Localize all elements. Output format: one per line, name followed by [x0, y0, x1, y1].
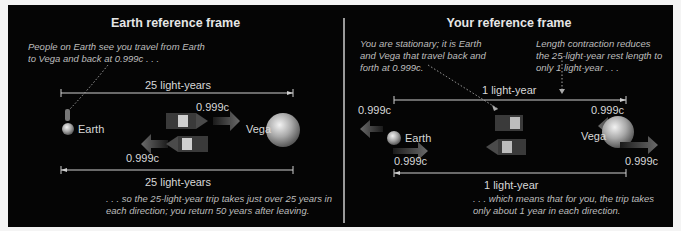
right-note-right: Length contraction reduces the 25-light-… — [536, 38, 676, 74]
left-panel-title: Earth reference frame — [8, 16, 343, 30]
figure-panel: Earth reference frame People on Earth se… — [8, 5, 673, 227]
right-note-bottom-line1: . . . which means that for you, the trip… — [473, 193, 673, 205]
distance-line-bottom-right — [394, 169, 626, 177]
right-speed-vega-right: 0.999c — [625, 155, 658, 167]
left-note-top-line2: to Vega and back at 0.999c . . . — [28, 53, 228, 65]
right-note-left-line3: forth at 0.999c. — [360, 62, 520, 74]
arrow-earth-left — [360, 120, 383, 138]
arrow-right-out — [213, 111, 240, 131]
left-note-bottom-line2: each direction; you return 50 years afte… — [106, 205, 346, 217]
left-earth-label: Earth — [78, 123, 104, 135]
right-distance-top: 1 light-year — [482, 84, 536, 96]
right-distance-bottom: 1 light-year — [484, 179, 538, 191]
rocket-on-earth-icon — [65, 109, 70, 121]
right-speed-earth-right: 0.999c — [394, 155, 427, 167]
earth-planet-left — [62, 123, 74, 135]
left-speed-back: 0.999c — [126, 152, 159, 164]
right-note-bottom: . . . which means that for you, the trip… — [473, 193, 673, 217]
right-note-left: You are stationary; it is Earth and Vega… — [360, 38, 520, 74]
earth-planet-right — [387, 131, 401, 145]
right-earth-label: Earth — [405, 132, 431, 144]
distance-line-top-right — [394, 96, 626, 104]
right-note-right-line1: Length contraction reduces — [536, 38, 676, 50]
vega-star-left — [266, 113, 300, 147]
left-distance-top: 25 light-years — [145, 79, 211, 91]
rocket-stationary-top-icon — [495, 115, 523, 131]
right-note-bottom-line2: only about 1 year in each direction. — [473, 205, 673, 217]
left-note-bottom: . . . so the 25-light-year trip takes ju… — [106, 193, 346, 217]
right-speed-vega-left: 0.999c — [591, 104, 624, 116]
left-note-bottom-line1: . . . so the 25-light-year trip takes ju… — [106, 193, 346, 205]
left-distance-bottom: 25 light-years — [145, 176, 211, 188]
right-note-left-line2: and Vega that travel back and — [360, 50, 520, 62]
left-vega-label: Vega — [246, 123, 271, 135]
rocket-stationary-bottom-icon — [486, 139, 526, 155]
right-speed-earth-left: 0.999c — [358, 104, 391, 116]
right-note-left-line1: You are stationary; it is Earth — [360, 38, 520, 50]
right-panel-title: Your reference frame — [345, 16, 673, 30]
left-note-top-line1: People on Earth see you travel from Eart… — [28, 41, 228, 53]
distance-line-bottom-left — [61, 166, 293, 174]
right-note-right-line2: the 25-light-year rest length to — [536, 50, 676, 62]
right-vega-label: Vega — [581, 130, 606, 142]
left-note-top: People on Earth see you travel from Eart… — [28, 41, 228, 65]
pointer-dotted-left — [70, 65, 108, 109]
left-speed-out: 0.999c — [196, 101, 229, 113]
arrow-left-back — [141, 134, 168, 154]
rocket-outbound-icon — [166, 113, 208, 129]
rocket-return-icon — [166, 136, 208, 152]
right-note-right-line3: only 1 light-year . . . — [536, 62, 676, 74]
